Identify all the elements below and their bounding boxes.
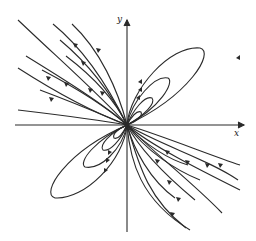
phase-portrait-diagram bbox=[0, 0, 256, 241]
closed-loops-quadrant-3 bbox=[51, 125, 127, 198]
x-axis-label: x bbox=[234, 128, 239, 138]
y-axis-arrow-icon bbox=[124, 20, 130, 26]
closed-loops-quadrant-1 bbox=[127, 48, 204, 125]
y-axis-label: y bbox=[117, 14, 122, 24]
